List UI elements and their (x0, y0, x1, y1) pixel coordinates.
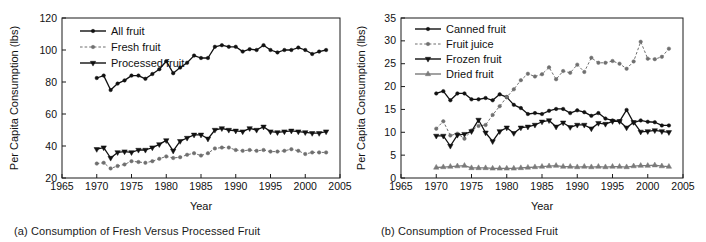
y-tick-label: 5 (390, 149, 396, 161)
data-point (540, 112, 544, 116)
data-point (554, 78, 558, 82)
data-point (667, 124, 671, 128)
data-point (283, 48, 287, 52)
data-point (310, 151, 314, 155)
data-point (240, 130, 245, 135)
data-point (123, 163, 127, 167)
legend-marker (91, 45, 95, 49)
data-point (220, 146, 224, 150)
data-point (220, 43, 224, 47)
data-point (547, 66, 551, 70)
data-point (144, 161, 148, 165)
legend-label: Fresh fruit (111, 41, 161, 53)
x-tick-label: 1975 (120, 180, 144, 192)
figure-container: 2040608010012019651970197519801985199019… (0, 0, 706, 242)
data-point (316, 132, 321, 137)
x-tick-label: 1985 (189, 180, 213, 192)
data-point (276, 150, 280, 154)
chart-b-svg: 0510152025303519651970197519801985199019… (353, 0, 706, 215)
data-point (568, 71, 572, 75)
data-point (547, 109, 551, 113)
data-point (504, 165, 509, 170)
data-point (158, 157, 162, 161)
data-point (646, 57, 650, 61)
data-point (505, 95, 509, 99)
data-point (491, 99, 495, 103)
data-point (310, 52, 314, 56)
data-point (553, 125, 558, 130)
series-dried-fruit (434, 162, 672, 170)
data-point (227, 146, 231, 150)
data-point (540, 72, 544, 76)
data-point (144, 77, 148, 81)
y-tick-label: 35 (384, 12, 396, 24)
data-point (290, 147, 294, 151)
data-point (137, 160, 141, 164)
x-tick-label: 1995 (259, 180, 283, 192)
data-point (248, 148, 252, 152)
y-tick-label: 100 (39, 44, 57, 56)
data-point (109, 88, 113, 92)
data-point (227, 45, 231, 49)
data-point (317, 50, 321, 54)
data-point (324, 48, 328, 52)
data-point (213, 147, 217, 151)
data-point (498, 93, 502, 97)
data-point (625, 67, 629, 71)
data-point (638, 130, 643, 135)
data-point (275, 131, 280, 136)
data-point (639, 40, 643, 44)
data-point (116, 164, 120, 168)
data-point (561, 69, 565, 73)
data-point (483, 165, 488, 170)
data-point (632, 60, 636, 64)
y-axis-title: Per Capita Consumption (lbs) (355, 26, 367, 170)
data-point (143, 148, 148, 153)
x-tick-label: 1990 (224, 180, 248, 192)
y-tick-label: 60 (45, 108, 57, 120)
data-point (568, 163, 573, 168)
data-point (262, 148, 266, 152)
y-axis-title: Per Capita Consumption (lbs) (8, 26, 20, 170)
data-point (660, 55, 664, 59)
legend-label: All fruit (111, 25, 145, 37)
data-point (206, 56, 210, 60)
data-point (582, 163, 587, 168)
data-point (624, 126, 629, 131)
data-point (653, 57, 657, 61)
legend: Canned fruitFruit juiceFrozen fruitDried… (415, 23, 506, 80)
x-axis-title: Year (190, 200, 213, 212)
x-tick-label: 1965 (50, 180, 74, 192)
data-point (171, 156, 175, 160)
y-tick-label: 20 (384, 80, 396, 92)
y-tick-label: 80 (45, 76, 57, 88)
data-point (448, 144, 453, 149)
data-point (171, 149, 176, 154)
data-point (269, 150, 273, 154)
data-point (533, 111, 537, 115)
data-point (561, 107, 565, 111)
chart-panel-a: 2040608010012019651970197519801985199019… (0, 0, 353, 242)
data-point (310, 132, 315, 137)
data-point (463, 92, 467, 96)
data-point (283, 149, 287, 153)
data-point (639, 119, 643, 123)
data-point (526, 112, 530, 116)
data-point (553, 163, 558, 168)
data-point (129, 151, 134, 156)
legend: All fruitFresh fruitProcessed fruit (80, 25, 184, 69)
data-point (666, 131, 671, 136)
y-tick-label: 40 (45, 140, 57, 152)
data-point (660, 124, 664, 128)
data-point (590, 56, 594, 60)
data-point (192, 151, 196, 155)
data-point (604, 61, 608, 65)
data-point (476, 165, 481, 170)
data-point (255, 48, 259, 52)
data-point (611, 59, 615, 63)
x-tick-label: 1970 (425, 180, 449, 192)
data-point (590, 114, 594, 118)
data-point (290, 48, 294, 52)
x-tick-label: 2005 (671, 180, 695, 192)
x-tick-label: 1965 (389, 180, 413, 192)
